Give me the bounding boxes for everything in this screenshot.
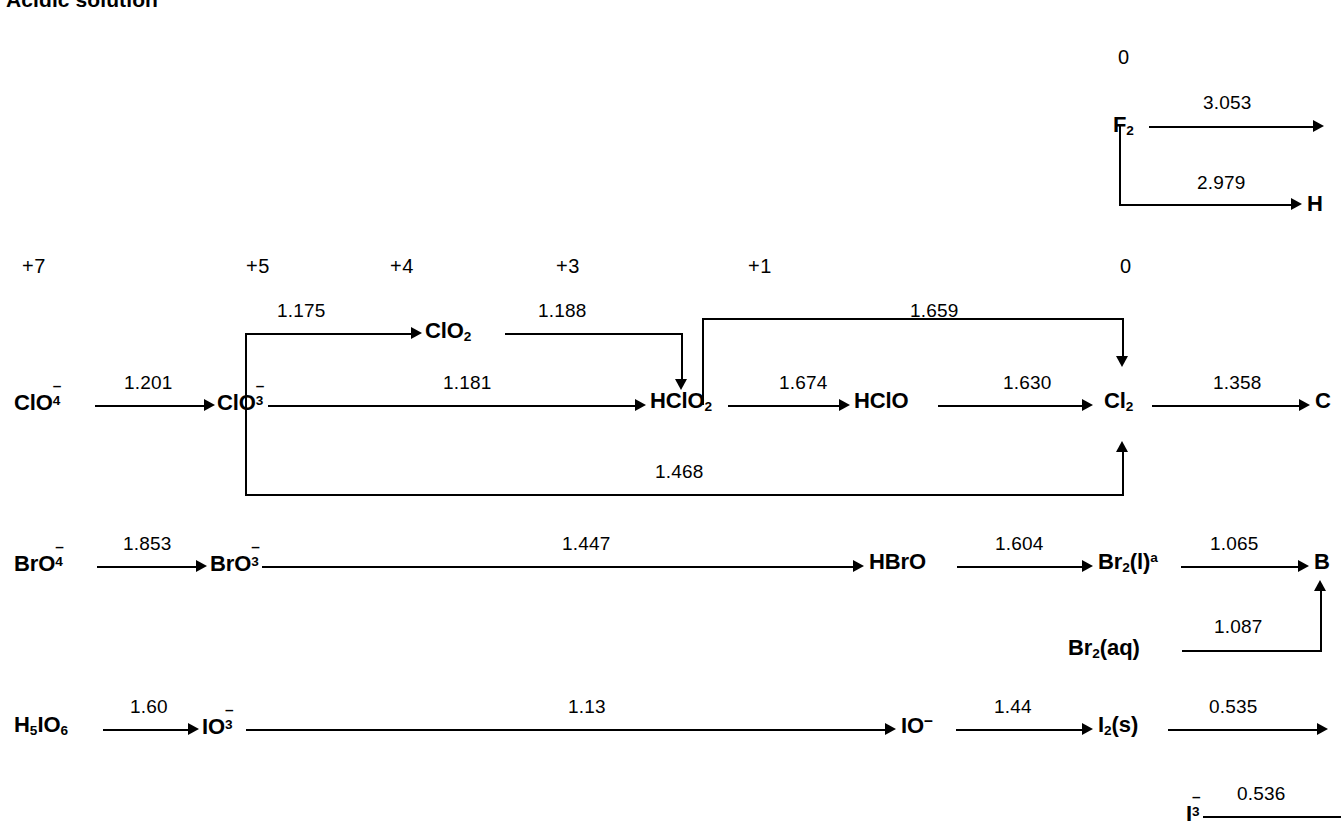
species-bromate: BrO–3 (210, 549, 251, 577)
arrowhead-diiodine-solid-to-iodide (1317, 723, 1328, 735)
edge-line-dichlorine-drop (1122, 318, 1124, 358)
oxidation-state-header-plus1: +1 (748, 255, 772, 278)
species-iodate-base: IO (202, 714, 225, 739)
edge-line-periodic-acid-to-iodate (103, 729, 190, 731)
arrowhead-chlorous-acid-to-dichlorine (1116, 356, 1128, 367)
potential-chlorous-acid-to-hypochlorous-acid: 1.674 (779, 372, 828, 394)
potential-chlorate-to-chlorous-acid: 1.181 (443, 372, 492, 394)
species-dibromine-aqueous-base: Br (1068, 635, 1092, 660)
species-diiodine-solid-state: (s) (1112, 712, 1139, 737)
arrowhead-chlorate-to-chlorous-acid (635, 399, 646, 411)
arrowhead-dichlorine-to-chloride (1299, 399, 1310, 411)
edge-line-perchlorate-to-chlorate (95, 405, 206, 407)
species-dichlorine-subscript: 2 (1126, 399, 1134, 414)
species-dibromine-aqueous-state: (aq) (1100, 635, 1140, 660)
species-dibromine-aqueous: Br2(aq) (1068, 635, 1140, 661)
footnote-marker-a: a (1150, 550, 1158, 565)
arrowhead-bromate-to-hypobromous-acid (853, 560, 864, 572)
arrowhead-chlorous-acid-to-hypochlorous-acid (839, 399, 850, 411)
species-triiodide-subscript: 3 (1192, 804, 1199, 819)
edge-line-f2-branch-down (1119, 126, 1121, 204)
species-chlorous-acid-subscript: 2 (705, 399, 713, 414)
potential-triiodide-to-iodide: 0.536 (1237, 783, 1286, 805)
species-perbromate-subscript: 4 (55, 554, 62, 569)
species-bromate-base: BrO (210, 551, 251, 576)
potential-chlorine-dioxide-to-chlorous-acid: 1.188 (538, 300, 587, 322)
species-f2-subscript: 2 (1126, 123, 1134, 138)
arrowhead-f2-to-fluoride (1313, 120, 1324, 132)
species-dibromine-liquid-base: Br (1098, 549, 1122, 574)
species-diiodine-solid: I2(s) (1098, 712, 1138, 738)
potential-dibromine-aqueous-to-bromide: 1.087 (1214, 616, 1263, 638)
edge-line-chlorous-acid-to-hypochlorous-acid (728, 405, 841, 407)
arrowhead-hypoiodite-to-diiodine-solid (1082, 723, 1093, 735)
species-iodate-subscript: 3 (225, 717, 232, 732)
edge-line-chlorate-to-chlorous-acid (268, 405, 637, 407)
species-dichlorine: Cl2 (1104, 388, 1133, 414)
edge-line-iodate-to-hypoiodite (246, 729, 887, 731)
edge-line-triiodide-to-iodide (1203, 816, 1341, 818)
edge-line-perbromate-to-bromate (97, 566, 198, 568)
edge-line-f2-to-fluoride (1149, 126, 1315, 128)
potential-perbromate-to-bromate: 1.853 (123, 533, 172, 555)
potential-periodic-acid-to-iodate: 1.60 (130, 696, 168, 718)
arrowhead-chlorate-to-dichlorine (1116, 441, 1128, 452)
species-perbromate-base: BrO (14, 551, 55, 576)
potential-hypoiodite-to-diiodine-solid: 1.44 (994, 696, 1032, 718)
species-dibromine-aqueous-subscript: 2 (1092, 646, 1100, 661)
potential-hypochlorous-acid-to-dichlorine: 1.630 (1003, 372, 1052, 394)
page-title: Acidic solution (6, 0, 158, 12)
potential-f2-to-hf: 2.979 (1197, 172, 1246, 194)
oxidation-state-header-plus3: +3 (556, 255, 580, 278)
edge-line-chlorate-to-dichlorine (245, 494, 1124, 496)
edge-line-bromate-to-hypobromous-acid (262, 566, 855, 568)
species-hypoiodite-base: IO (901, 713, 924, 738)
species-chlorine-dioxide: ClO2 (425, 318, 471, 344)
latimer-diagram-page: Acidic solution 0 F2 3.053 2.979 H +7 +5… (0, 0, 1341, 838)
species-bromate-subscript: 3 (251, 554, 258, 569)
edge-line-dibromine-liquid-to-bromide (1181, 566, 1300, 568)
species-perbromate: BrO–4 (14, 549, 55, 577)
potential-dichlorine-to-chloride: 1.358 (1213, 372, 1262, 394)
species-chloride-partial: C (1315, 388, 1331, 414)
species-dibromine-liquid: Br2(l)a (1098, 549, 1158, 575)
species-hf-partial: H (1307, 191, 1323, 217)
species-chlorine-dioxide-base: ClO (425, 318, 464, 343)
edge-line-chlorate-branch-up (245, 333, 247, 405)
potential-chlorate-to-chlorine-dioxide: 1.175 (277, 300, 326, 322)
edge-line-chlorous-acid-drop (681, 333, 683, 381)
species-chlorate-subscript: 3 (256, 393, 263, 408)
edge-line-bromide-rise (1320, 591, 1322, 650)
species-dichlorine-base: Cl (1104, 388, 1126, 413)
arrowhead-f2-to-hf (1291, 198, 1302, 210)
edge-line-chlorate-to-chlorine-dioxide (245, 333, 413, 335)
species-fluoride-partial (1329, 112, 1335, 138)
edge-line-chlorous-acid-to-dichlorine (702, 318, 1124, 320)
species-periodic-acid-io: IO (37, 712, 60, 737)
species-periodic-acid-h: H (14, 712, 30, 737)
edge-line-hypoiodite-to-diiodine-solid (956, 729, 1084, 731)
potential-hypobromous-acid-to-dibromine-liquid: 1.604 (995, 533, 1044, 555)
oxidation-state-header-plus7: +7 (22, 255, 46, 278)
species-chlorine-dioxide-subscript: 2 (464, 329, 472, 344)
species-iodate: IO–3 (202, 712, 225, 740)
edge-line-diiodine-solid-to-iodide (1168, 729, 1319, 731)
oxidation-state-header-zero: 0 (1120, 255, 1132, 278)
species-hypoiodite: IO– (901, 712, 933, 739)
edge-line-dichlorine-to-chloride (1152, 405, 1301, 407)
species-perchlorate-subscript: 4 (53, 393, 60, 408)
species-diiodine-solid-subscript: 2 (1104, 723, 1112, 738)
edge-line-chlorine-dioxide-to-chlorous-acid (505, 333, 683, 335)
species-triiodide: I–3 (1186, 799, 1192, 827)
arrowhead-dibromine-liquid-to-bromide (1298, 560, 1309, 572)
edge-line-dibromine-aqueous-to-bromide (1182, 650, 1322, 652)
oxidation-state-header-top-0: 0 (1118, 46, 1130, 69)
species-periodic-acid-sub6: 6 (60, 723, 68, 738)
oxidation-state-header-plus4: +4 (390, 255, 414, 278)
oxidation-state-header-plus5: +5 (246, 255, 270, 278)
species-chlorate-base: ClO (217, 390, 256, 415)
species-hypobromous-acid: HBrO (869, 549, 926, 575)
species-periodic-acid: H5IO6 (14, 712, 68, 738)
arrowhead-iodate-to-hypoiodite (885, 723, 896, 735)
species-hypochlorous-acid: HClO (854, 388, 909, 414)
